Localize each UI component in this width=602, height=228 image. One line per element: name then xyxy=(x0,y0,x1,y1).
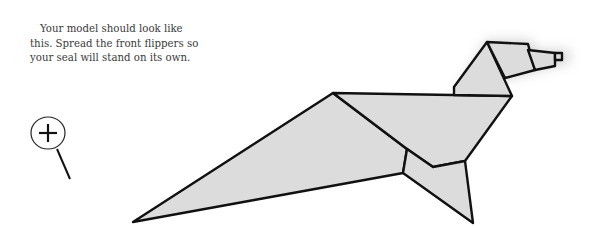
seal-model-figure xyxy=(0,0,602,228)
seal-nose xyxy=(555,53,562,60)
seal-body xyxy=(133,42,562,223)
